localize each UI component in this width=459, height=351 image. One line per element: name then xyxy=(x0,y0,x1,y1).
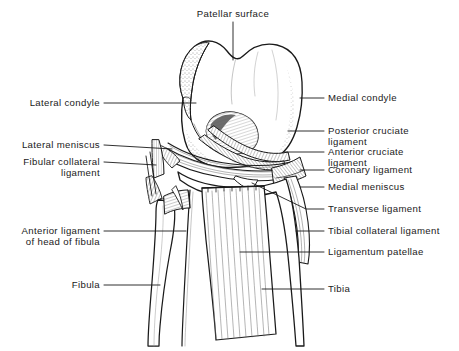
label-anterior-cruciate-ligament-line1: Anterior cruciate xyxy=(328,146,404,157)
leader-fibular-collateral-ligament xyxy=(104,162,156,165)
label-anterior-ligament-head-of-fibula-line2: of head of fibula xyxy=(26,236,100,247)
label-ligamentum-patellae: Ligamentum patellae xyxy=(328,246,459,257)
label-fibular-collateral-ligament-line2: ligament xyxy=(61,167,100,178)
label-lateral-meniscus: Lateral meniscus xyxy=(0,139,100,150)
fibula xyxy=(148,200,175,346)
label-patellar-surface: Patellar surface xyxy=(170,8,296,19)
label-lateral-condyle: Lateral condyle xyxy=(0,97,100,108)
label-posterior-cruciate-ligament-line1: Posterior cruciate xyxy=(328,125,409,136)
label-anterior-ligament-head-of-fibula: Anterior ligamentof head of fibula xyxy=(0,225,100,248)
label-transverse-ligament: Transverse ligament xyxy=(328,203,459,214)
label-medial-condyle: Medial condyle xyxy=(328,92,459,103)
label-fibular-collateral-ligament-line1: Fibular collateral xyxy=(23,156,100,167)
label-posterior-cruciate-ligament: Posterior cruciateligament xyxy=(328,125,459,148)
label-medial-meniscus: Medial meniscus xyxy=(328,181,459,192)
label-fibula: Fibula xyxy=(0,279,100,290)
label-tibia: Tibia xyxy=(328,283,459,294)
label-tibial-collateral-ligament: Tibial collateral ligament xyxy=(328,225,459,236)
label-fibular-collateral-ligament: Fibular collateralligament xyxy=(0,156,100,179)
label-coronary-ligament: Coronary ligament xyxy=(328,164,459,175)
knee-joint-figure: Patellar surface Lateral condyle Lateral… xyxy=(0,0,459,351)
label-anterior-ligament-head-of-fibula-line1: Anterior ligament xyxy=(22,225,100,236)
